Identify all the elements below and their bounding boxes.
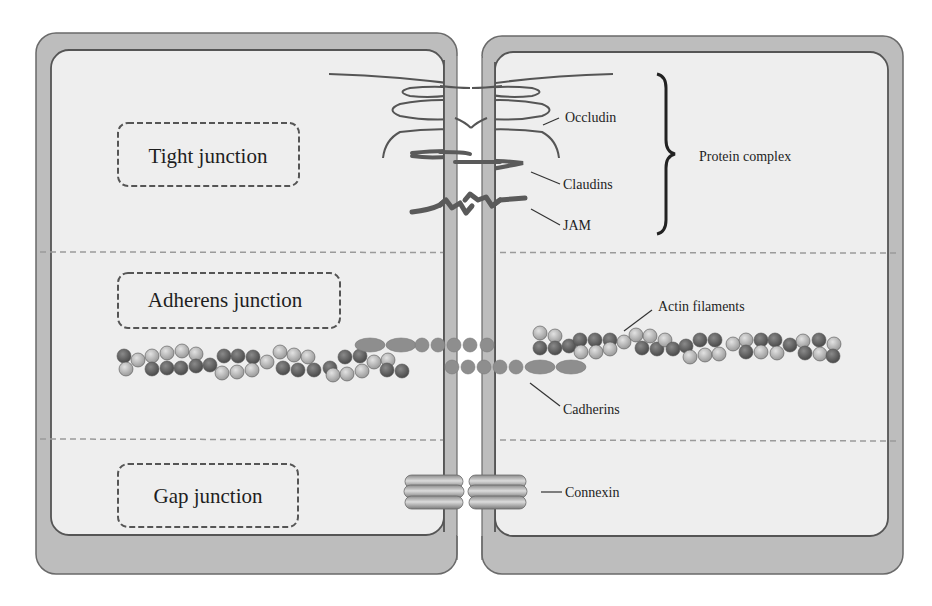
actin-filaments-label: Actin filaments: [658, 299, 745, 314]
cadherins-label: Cadherins: [563, 402, 620, 417]
occludin-label: Occludin: [565, 110, 616, 125]
gap-junction-label: Gap junction: [153, 484, 263, 508]
jam-label: JAM: [563, 218, 592, 233]
protein-complex-label: Protein complex: [699, 149, 791, 164]
cell-junction-diagram: Tight junction Adherens junction Gap jun…: [0, 0, 932, 606]
tight-junction-label: Tight junction: [149, 144, 268, 168]
connexin-label: Connexin: [565, 485, 619, 500]
connexin-right: [468, 475, 527, 509]
claudins-label: Claudins: [563, 177, 613, 192]
adherens-junction-label: Adherens junction: [148, 288, 303, 312]
connexin-left: [404, 475, 464, 509]
intercellular-space: [457, 56, 482, 536]
